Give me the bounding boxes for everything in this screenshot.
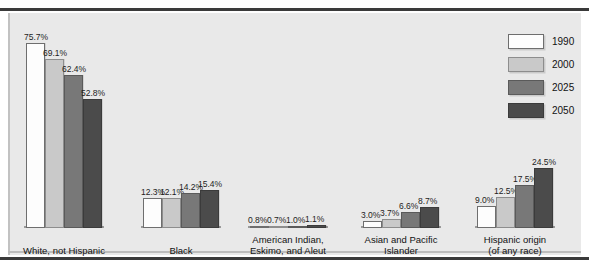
category-label: Black <box>119 245 243 256</box>
bar-value-label: 0.8% <box>248 215 267 225</box>
legend-label-2050: 2050 <box>552 104 574 118</box>
bar-1990-4[interactable] <box>363 221 382 228</box>
bar-2000-3[interactable] <box>269 226 288 228</box>
bar-value-label: 1.0% <box>286 215 305 225</box>
bar-value-label: 52.8% <box>81 88 105 98</box>
bar-1990-5[interactable] <box>477 206 496 228</box>
legend-swatch-2050 <box>508 103 544 118</box>
bar-value-label: 62.4% <box>62 64 86 74</box>
legend-label-2000: 2000 <box>552 58 574 72</box>
category-label: White, not Hispanic <box>2 245 126 256</box>
legend-label-1990: 1990 <box>552 35 574 49</box>
chart-root: 75.7%69.1%62.4%52.8%White, not Hispanic1… <box>0 0 589 274</box>
bar-2025-5[interactable] <box>515 185 534 228</box>
legend-label-2025: 2025 <box>552 81 574 95</box>
bar-2050-4[interactable] <box>420 207 439 228</box>
bar-value-label: 75.7% <box>24 32 48 42</box>
legend-swatch-1990 <box>508 34 544 49</box>
bar-1990-2[interactable] <box>143 198 162 228</box>
bar-value-label: 3.0% <box>361 210 380 220</box>
bar-2025-4[interactable] <box>401 212 420 228</box>
category-label: Asian and Pacific Islander <box>339 234 463 256</box>
bar-plot: 75.7%69.1%62.4%52.8%White, not Hispanic1… <box>0 0 589 274</box>
bar-2000-2[interactable] <box>162 198 181 228</box>
bar-value-label: 9.0% <box>475 195 494 205</box>
bar-2000-1[interactable] <box>45 59 64 228</box>
bar-value-label: 1.1% <box>305 214 324 224</box>
bar-1990-1[interactable] <box>26 43 45 228</box>
legend-swatch-2000 <box>508 57 544 72</box>
bar-value-label: 24.5% <box>532 157 556 167</box>
bar-value-label: 6.6% <box>399 201 418 211</box>
bar-2000-4[interactable] <box>382 219 401 228</box>
bar-2025-3[interactable] <box>288 226 307 228</box>
legend-swatch-2025 <box>508 80 544 95</box>
bottom-rule <box>0 257 589 260</box>
bar-2000-5[interactable] <box>496 197 515 228</box>
bar-2025-2[interactable] <box>181 193 200 228</box>
bar-2050-3[interactable] <box>307 225 326 228</box>
bar-value-label: 3.7% <box>380 208 399 218</box>
bar-value-label: 15.4% <box>198 179 222 189</box>
bar-2050-2[interactable] <box>200 190 219 228</box>
category-label: Hispanic origin (of any race) <box>453 234 577 256</box>
bar-value-label: 8.7% <box>418 196 437 206</box>
bar-value-label: 0.7% <box>267 215 286 225</box>
bar-2050-1[interactable] <box>83 99 102 228</box>
bar-value-label: 69.1% <box>43 48 67 58</box>
category-label: American Indian, Eskimo, and Aleut <box>226 234 350 256</box>
bar-1990-3[interactable] <box>250 226 269 228</box>
bar-2050-5[interactable] <box>534 168 553 228</box>
